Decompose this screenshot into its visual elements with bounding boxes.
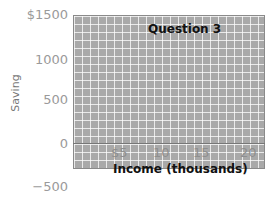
- y-tick-0: 0: [60, 137, 68, 151]
- x-tick-15: 15: [193, 146, 210, 160]
- y-axis-label: Saving: [9, 73, 23, 113]
- y-tick-1000: 1000: [35, 53, 68, 67]
- zero-axis-line: [73, 143, 265, 144]
- x-tick-10: 10: [153, 146, 170, 160]
- chart-title: Question 3: [148, 22, 221, 36]
- y-tick-1500: $1500: [27, 8, 68, 22]
- y-tick-neg500: −500: [32, 180, 68, 194]
- x-tick-20: 20: [240, 146, 257, 160]
- x-tick-5: $5: [111, 146, 128, 160]
- y-tick-500: 500: [43, 93, 68, 107]
- x-axis-label: Income (thousands): [113, 162, 248, 176]
